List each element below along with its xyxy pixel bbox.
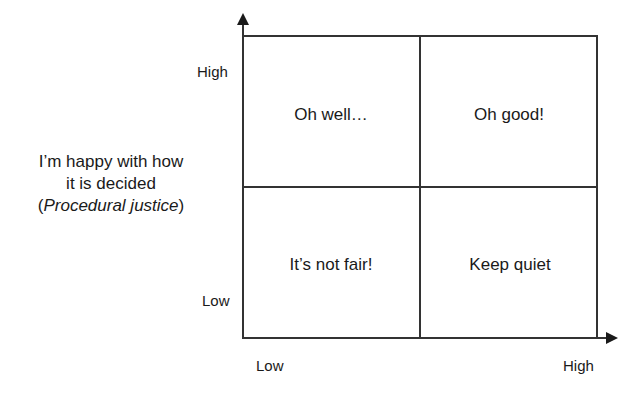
quadrant-bottom-left: It’s not fair! [290,255,373,275]
y-axis-title-line-2: it is decided [0,173,222,195]
quadrant-bottom-right: Keep quiet [469,255,550,275]
y-axis-title-line-1: I’m happy with how [0,151,222,173]
y-axis-high-label: High [197,63,228,80]
quadrant-top-right: Oh good! [474,105,544,125]
y-axis-line [242,22,244,339]
y-axis-arrow-icon [237,13,249,25]
y-axis-title-line-3: (Procedural justice) [0,195,222,217]
x-axis-low-label: Low [256,357,284,374]
quadrant-top-left: Oh well… [294,105,368,125]
matrix-horizontal-divider [242,186,598,188]
x-axis-line [242,337,609,339]
x-axis-arrow-icon [606,332,618,344]
y-axis-title-italic: Procedural justice [43,196,178,215]
paren-close: ) [179,196,185,215]
y-axis-low-label: Low [202,292,230,309]
x-axis-high-label: High [563,357,594,374]
y-axis-title: I’m happy with how it is decided (Proced… [0,151,222,217]
